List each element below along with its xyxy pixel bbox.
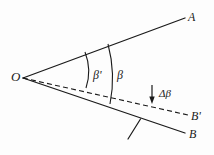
hatch-tick-mark: [128, 119, 141, 139]
ray-oa-line: [23, 18, 185, 78]
label-angle-beta-prime: β': [93, 69, 102, 81]
label-ray-a: A: [188, 11, 195, 23]
label-ray-b: B: [189, 128, 196, 140]
diagram-canvas: [0, 0, 214, 155]
label-angle-beta: β: [117, 69, 123, 81]
figure-container: O A B' B β' β Δβ: [0, 0, 214, 155]
arc-beta-prime: [85, 52, 89, 88]
label-vertex-o: O: [11, 70, 20, 83]
label-ray-b-prime: B': [191, 110, 201, 122]
arc-beta: [108, 44, 113, 104]
delta-beta-arrowhead: [149, 97, 154, 105]
label-angle-delta-beta: Δβ: [159, 88, 171, 99]
